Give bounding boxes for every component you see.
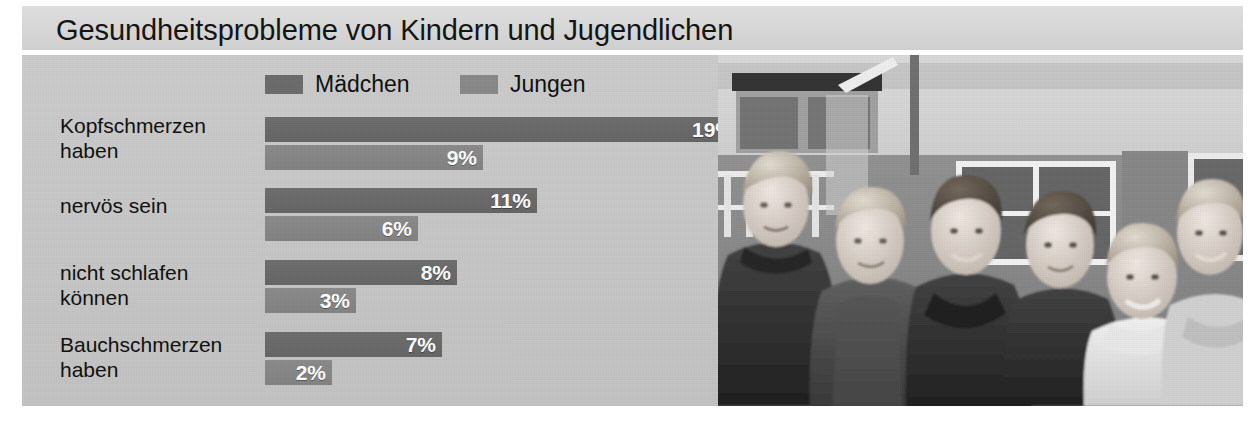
bar-value-jungen-1: 6%	[382, 216, 412, 241]
category-label-2-line2: können	[60, 285, 188, 310]
bar-maedchen-0: 19%	[265, 117, 718, 142]
infographic-canvas: Gesundheitsprobleme von Kindern und Juge…	[0, 0, 1253, 422]
bar-value-jungen-0: 9%	[447, 145, 477, 170]
photo-teenagers	[718, 55, 1243, 406]
bar-maedchen-2: 8%	[265, 260, 457, 285]
bar-value-maedchen-3: 7%	[406, 332, 436, 357]
category-label-2-line1: nicht schlafen	[60, 260, 188, 285]
legend-item-jungen: Jungen	[460, 71, 640, 97]
photo-illustration	[718, 55, 1243, 406]
bar-value-maedchen-2: 8%	[421, 260, 451, 285]
category-label-2: nicht schlafen können	[60, 260, 188, 310]
title-bar: Gesundheitsprobleme von Kindern und Juge…	[22, 6, 1243, 50]
category-label-3-line2: haben	[60, 357, 222, 382]
legend-swatch-jungen	[460, 75, 498, 94]
legend-item-maedchen: Mädchen	[265, 71, 455, 97]
bar-jungen-0: 9%	[265, 145, 483, 170]
legend-label-maedchen: Mädchen	[315, 71, 410, 97]
category-label-3-line1: Bauchschmerzen	[60, 332, 222, 357]
bar-maedchen-1: 11%	[265, 188, 537, 213]
legend-swatch-maedchen	[265, 75, 303, 94]
bar-value-jungen-2: 3%	[320, 288, 350, 313]
category-label-0-line2: haben	[60, 138, 206, 163]
category-label-3: Bauchschmerzen haben	[60, 332, 222, 382]
bar-value-maedchen-1: 11%	[490, 188, 531, 213]
bar-value-maedchen-0: 19%	[692, 117, 718, 142]
category-label-0-line1: Kopfschmerzen	[60, 113, 206, 138]
category-label-1-line1: nervös sein	[60, 193, 167, 218]
category-label-0: Kopfschmerzen haben	[60, 113, 206, 163]
bar-jungen-2: 3%	[265, 288, 356, 313]
bar-value-jungen-3: 2%	[296, 360, 326, 385]
page-title: Gesundheitsprobleme von Kindern und Juge…	[56, 12, 1156, 48]
category-label-1: nervös sein	[60, 193, 167, 218]
bar-jungen-3: 2%	[265, 360, 332, 385]
bar-jungen-1: 6%	[265, 216, 418, 241]
bar-maedchen-3: 7%	[265, 332, 442, 357]
legend-label-jungen: Jungen	[510, 71, 585, 97]
chart-panel: Mädchen Jungen Kopfschmerzen haben 19% 9…	[22, 55, 718, 406]
